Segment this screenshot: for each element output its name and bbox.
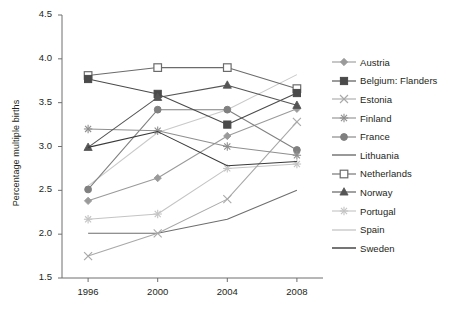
- y-tick-label: 3.5: [24, 96, 52, 107]
- legend-label: Belgium: Flanders: [357, 75, 437, 86]
- legend-marker-icon: [331, 147, 357, 163]
- y-tick-label: 4.0: [24, 52, 52, 63]
- legend-label: Finland: [357, 113, 392, 124]
- y-tick-label: 2.5: [24, 183, 52, 194]
- series-austria: [84, 105, 300, 204]
- chart-figure: Percentage multiple births AustriaBelgiu…: [0, 0, 451, 310]
- axes: [62, 15, 323, 278]
- chart-legend: AustriaBelgium: FlandersEstoniaFinlandFr…: [331, 53, 449, 258]
- data-point-marker: [340, 170, 348, 178]
- legend-item-portugal[interactable]: Portugal: [331, 202, 449, 221]
- legend-item-netherlands[interactable]: Netherlands: [331, 165, 449, 184]
- data-point-marker: [293, 118, 301, 126]
- series-sweden: [88, 132, 297, 166]
- legend-marker-icon: [331, 129, 357, 145]
- legend-item-estonia[interactable]: Estonia: [331, 90, 449, 109]
- legend-label: Norway: [357, 187, 393, 198]
- legend-marker-icon: [331, 54, 357, 70]
- legend-label: Sweden: [357, 243, 395, 254]
- legend-label: Estonia: [357, 94, 392, 105]
- y-tick-label: 3.0: [24, 140, 52, 151]
- x-tick-label: 2004: [205, 286, 249, 297]
- data-point-marker: [85, 186, 92, 193]
- legend-item-lithuania[interactable]: Lithuania: [331, 146, 449, 165]
- series-netherlands: [84, 64, 300, 93]
- legend-marker-icon: [331, 91, 357, 107]
- series-estonia: [84, 118, 301, 260]
- legend-marker-icon: [331, 184, 357, 200]
- legend-marker-icon: [331, 110, 357, 126]
- data-point-marker: [224, 121, 231, 128]
- series-france: [85, 106, 301, 193]
- data-point-marker: [154, 210, 162, 218]
- data-point-marker: [154, 174, 161, 181]
- legend-item-austria[interactable]: Austria: [331, 53, 449, 72]
- legend-marker-icon: [331, 73, 357, 89]
- data-point-marker: [154, 64, 162, 72]
- legend-label: France: [357, 131, 390, 142]
- data-point-marker: [340, 114, 348, 122]
- data-point-marker: [224, 106, 231, 113]
- data-point-marker: [154, 127, 162, 135]
- legend-marker-icon: [331, 166, 357, 182]
- data-point-marker: [340, 207, 348, 215]
- series-lithuania: [88, 190, 297, 233]
- data-point-marker: [85, 75, 92, 82]
- data-point-marker: [223, 195, 231, 203]
- legend-label: Netherlands: [357, 168, 412, 179]
- legend-item-belgium-flanders[interactable]: Belgium: Flanders: [331, 72, 449, 91]
- legend-marker-icon: [331, 203, 357, 219]
- data-point-marker: [223, 142, 231, 150]
- data-point-marker: [84, 215, 92, 223]
- data-point-marker: [293, 89, 300, 96]
- y-tick-label: 4.5: [24, 8, 52, 19]
- legend-item-finland[interactable]: Finland: [331, 109, 449, 128]
- data-point-marker: [223, 81, 231, 88]
- x-tick-label: 1996: [66, 286, 110, 297]
- y-tick-label: 2.0: [24, 227, 52, 238]
- legend-marker-icon: [331, 240, 357, 256]
- data-point-marker: [84, 125, 92, 133]
- data-point-marker: [293, 151, 301, 159]
- legend-label: Austria: [357, 57, 390, 68]
- legend-item-spain[interactable]: Spain: [331, 220, 449, 239]
- legend-label: Portugal: [357, 206, 396, 217]
- x-tick-label: 2000: [136, 286, 180, 297]
- legend-marker-icon: [331, 222, 357, 238]
- legend-label: Lithuania: [357, 150, 399, 161]
- legend-item-france[interactable]: France: [331, 127, 449, 146]
- legend-item-sweden[interactable]: Sweden: [331, 239, 449, 258]
- legend-label: Spain: [357, 224, 385, 235]
- data-point-marker: [340, 188, 348, 195]
- legend-item-norway[interactable]: Norway: [331, 183, 449, 202]
- data-point-marker: [84, 252, 92, 260]
- data-point-marker: [224, 132, 231, 139]
- data-point-marker: [341, 133, 348, 140]
- data-point-marker: [340, 77, 347, 84]
- data-point-marker: [224, 64, 232, 72]
- data-point-marker: [154, 106, 161, 113]
- series-norway: [84, 81, 301, 151]
- x-tick-label: 2008: [275, 286, 319, 297]
- data-point-marker: [84, 197, 91, 204]
- y-tick-label: 1.5: [24, 271, 52, 282]
- series-finland: [84, 125, 301, 160]
- data-point-marker: [340, 59, 347, 66]
